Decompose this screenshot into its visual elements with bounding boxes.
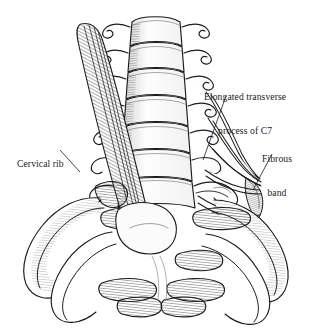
label-fibrous-band: Fibrous band (250, 130, 304, 221)
label-fibrous-band-line2: band (250, 187, 304, 198)
label-cervical-rib: Cervical rib (17, 135, 64, 192)
label-c7-line1: Elongated transverse (204, 91, 286, 102)
label-fibrous-band-line1: Fibrous (250, 153, 304, 164)
label-cervical-rib-line1: Cervical rib (17, 158, 64, 169)
anatomical-figure: Elongated transverse process of C7 Cervi… (0, 0, 322, 334)
